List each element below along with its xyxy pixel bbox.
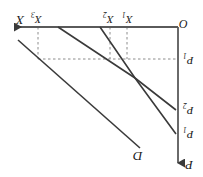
origin-label: O [179,18,188,30]
demand-curve-label: D [133,150,142,163]
x-axis-label-text: X [16,13,24,28]
x-tick-label-x1: X1 [122,11,132,25]
guide-lines [38,27,178,59]
x-tick-x3-sub: 3 [31,10,35,19]
p-tick-p2-sub: 2 [183,101,187,110]
demand-curve-d [18,40,140,148]
x-axis-label: X [16,14,24,27]
p-tick-p1u-base: P [187,55,194,67]
p-tick-label-p2: P2 [183,102,193,116]
figure-root: —— ——— —— —— — [0,0,203,177]
p-tick-p1l-sub: 1 [183,125,187,134]
p-tick-p2-base: P [187,105,194,117]
origin-label-text: O [179,17,188,31]
curve-through-x3 [58,27,176,110]
x-tick-label-x2: X2 [103,11,113,25]
p-tick-label-p1-upper: P1 [183,52,193,66]
p-axis-label-text: P [185,158,193,173]
x-tick-x3-base: X [35,14,42,26]
x-tick-x2-base: X [107,14,114,26]
p-tick-p1u-sub: 1 [183,51,187,60]
x-tick-label-x3: X3 [31,11,41,25]
plot-canvas [0,0,203,177]
axis-lines [14,27,178,163]
p-tick-p1l-base: P [187,129,194,141]
p-tick-label-p1-lower: P1 [183,126,193,140]
curves [18,27,176,148]
x-tick-x2-sub: 2 [103,10,107,19]
demand-curve-label-text: D [133,149,142,164]
x-tick-x1-sub: 1 [122,10,126,19]
p-axis-label: P [185,159,193,172]
x-tick-x1-base: X [126,14,133,26]
